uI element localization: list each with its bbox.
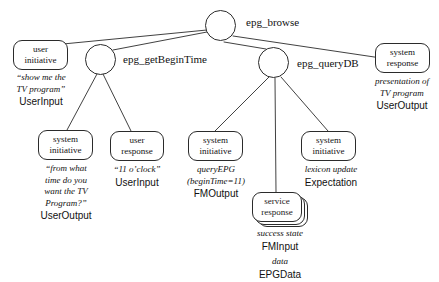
root-label: epg_browse bbox=[246, 16, 299, 28]
node-system-initiative-query-line1: system bbox=[203, 135, 228, 146]
annotation-user-initiative-type: UserInput bbox=[3, 96, 79, 108]
root-circle[interactable] bbox=[205, 10, 236, 41]
node-user-initiative[interactable]: user initiative bbox=[13, 40, 68, 70]
edge-root-to-user-initiative bbox=[63, 30, 207, 44]
annotation-system-initiative-query-type: FMOutput bbox=[174, 188, 258, 200]
getbegintime-circle[interactable] bbox=[85, 44, 116, 75]
edge-getbegintime-to-user-response bbox=[103, 74, 131, 131]
node-service-response-line2: response bbox=[261, 207, 293, 218]
annotation-system-initiative-query: queryEPG (beginTime=11) FMOutput bbox=[174, 164, 258, 200]
node-system-initiative-time-line1: system bbox=[53, 134, 78, 145]
node-system-initiative-lexicon-line1: system bbox=[316, 135, 341, 146]
annotation-system-initiative-time-italic-4: Program?” bbox=[24, 198, 108, 210]
annotation-service-response-type-1: FMInput bbox=[238, 241, 322, 253]
annotation-user-response-time: “11 o’clock” UserInput bbox=[97, 164, 177, 188]
annotation-system-initiative-lexicon: lexicon update Expectation bbox=[286, 164, 376, 188]
querydb-label: epg_queryDB bbox=[297, 57, 359, 69]
annotation-system-initiative-query-italic-1: queryEPG bbox=[174, 164, 258, 176]
node-system-response[interactable]: system response bbox=[375, 43, 430, 73]
edge-root-to-querydb bbox=[224, 42, 266, 49]
node-service-response-line1: service bbox=[264, 196, 289, 207]
annotation-user-response-time-type: UserInput bbox=[97, 177, 177, 189]
node-system-initiative-lexicon-line2: initiative bbox=[313, 146, 345, 157]
annotation-system-initiative-time-italic-2: time do you bbox=[24, 175, 108, 187]
annotation-system-initiative-query-italic-2: (beginTime=11) bbox=[174, 176, 258, 188]
getbegintime-label: epg_getBeginTime bbox=[123, 53, 207, 65]
edge-querydb-to-system-initiative-lexicon bbox=[281, 77, 328, 131]
node-system-initiative-time-line2: initiative bbox=[50, 145, 82, 156]
annotation-user-initiative: “show me the TV program” UserInput bbox=[3, 72, 79, 108]
annotation-system-initiative-time-italic-1: “from what bbox=[24, 163, 108, 175]
node-user-response-time[interactable]: user response bbox=[110, 131, 164, 161]
edge-querydb-to-system-initiative-query bbox=[215, 77, 269, 131]
node-system-initiative-query-line2: initiative bbox=[200, 146, 232, 157]
querydb-circle[interactable] bbox=[258, 47, 289, 78]
annotation-service-response-type-2: EPGData bbox=[238, 269, 322, 281]
annotation-user-initiative-italic-2: TV program” bbox=[3, 84, 79, 96]
annotation-system-initiative-lexicon-italic-1: lexicon update bbox=[286, 164, 376, 176]
edge-querydb-to-service-response bbox=[275, 78, 276, 192]
node-user-response-time-line1: user bbox=[130, 135, 145, 146]
annotation-system-initiative-lexicon-type: Expectation bbox=[286, 177, 376, 189]
annotation-system-initiative-time: “from what time do you want the TV Progr… bbox=[24, 163, 108, 222]
node-system-initiative-time[interactable]: system initiative bbox=[38, 130, 93, 160]
node-system-response-line1: system bbox=[390, 47, 415, 58]
annotation-service-response-italic-2: data bbox=[238, 256, 322, 268]
node-system-response-line2: response bbox=[387, 58, 419, 69]
annotation-system-response-type: UserOutput bbox=[362, 100, 439, 112]
node-user-response-time-line2: response bbox=[121, 146, 153, 157]
node-user-initiative-line1: user bbox=[33, 44, 48, 55]
annotation-service-response-italic-1: success state bbox=[238, 228, 322, 240]
node-service-response[interactable]: service response bbox=[252, 192, 308, 228]
dialogue-act-tree-diagram: epg_browse epg_getBeginTime epg_queryDB … bbox=[0, 0, 439, 282]
annotation-user-response-time-italic-1: “11 o’clock” bbox=[97, 164, 177, 176]
annotation-system-response: presentation of TV program UserOutput bbox=[362, 76, 439, 112]
node-system-initiative-lexicon[interactable]: system initiative bbox=[301, 131, 356, 161]
annotation-system-initiative-time-type: UserOutput bbox=[24, 210, 108, 222]
annotation-system-initiative-time-italic-3: want the TV bbox=[24, 186, 108, 198]
node-user-initiative-line2: initiative bbox=[25, 55, 57, 66]
annotation-system-response-italic-1: presentation of bbox=[362, 76, 439, 88]
annotation-system-response-italic-2: TV program bbox=[362, 88, 439, 100]
node-system-initiative-query[interactable]: system initiative bbox=[188, 131, 243, 161]
annotation-user-initiative-italic-1: “show me the bbox=[3, 72, 79, 84]
service-response-stack-front: service response bbox=[252, 192, 302, 222]
annotation-service-response: success state FMInput data EPGData bbox=[238, 228, 322, 280]
